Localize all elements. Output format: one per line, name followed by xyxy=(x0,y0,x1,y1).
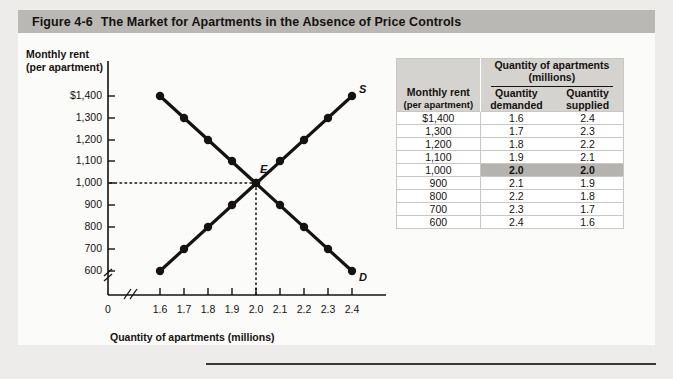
table-cell-quantity-demanded: 2.1 xyxy=(480,177,552,190)
figure-title: The Market for Apartments in the Absence… xyxy=(93,15,462,29)
table-group-header: Quantity of apartments (millions) xyxy=(480,59,623,88)
x-axis-title: Quantity of apartments (millions) xyxy=(110,331,275,344)
y-tick-label-1400: $1,400 xyxy=(50,89,102,101)
figure-panel: Monthly rent (per apartment) $1,400 1,30… xyxy=(18,33,655,345)
supply-curve-label: S xyxy=(359,83,366,95)
x-axis-origin-label: 0 xyxy=(93,303,123,315)
x-tick-label-2-4: 2.4 xyxy=(337,303,367,315)
table-row: 9002.11.9 xyxy=(397,177,624,190)
supply-demand-chart: Monthly rent (per apartment) $1,400 1,30… xyxy=(18,33,408,345)
table-cell-rent: 1,200 xyxy=(397,138,481,151)
table-cell-quantity-demanded: 2.0 xyxy=(480,164,552,177)
table-cell-quantity-supplied: 2.1 xyxy=(552,151,623,164)
table-body: $1,4001.62.41,3001.72.31,2001.82.21,1001… xyxy=(397,112,624,229)
table-row: 1,2001.82.2 xyxy=(397,138,624,151)
table-cell-quantity-demanded: 1.6 xyxy=(480,112,552,125)
figure-number: Figure 4-6 xyxy=(18,15,93,29)
table-row: 7002.31.7 xyxy=(397,203,624,216)
figure-title-bar: Figure 4-6 The Market for Apartments in … xyxy=(18,10,655,33)
table-header-row-group: Monthly rent(per apartment) Quantity of … xyxy=(397,59,624,88)
table-header-supplied-line2: supplied xyxy=(566,99,609,111)
table-header-rent-line2: (per apartment) xyxy=(404,99,474,110)
y-tick-label-800: 800 xyxy=(50,220,102,232)
bottom-divider xyxy=(206,363,656,365)
table-cell-quantity-demanded: 2.3 xyxy=(480,203,552,216)
table-cell-quantity-demanded: 1.9 xyxy=(480,151,552,164)
supply-demand-table: Monthly rent(per apartment) Quantity of … xyxy=(396,58,624,229)
equilibrium-point-label: E xyxy=(260,163,267,175)
chart-canvas xyxy=(18,33,408,345)
y-axis-title-line2: (per apartment) xyxy=(26,61,103,74)
table-cell-quantity-supplied: 1.7 xyxy=(552,203,623,216)
y-tick-label-1100: 1,100 xyxy=(50,154,102,166)
table-cell-rent: 1,100 xyxy=(397,151,481,164)
table-header-rent-line1: Monthly rent xyxy=(407,86,470,98)
table-group-header-line1: Quantity of apartments xyxy=(494,59,609,71)
y-tick-label-900: 900 xyxy=(50,198,102,210)
table-cell-quantity-demanded: 2.2 xyxy=(480,190,552,203)
table-cell-quantity-supplied: 2.3 xyxy=(552,125,623,138)
supply-demand-table-wrapper: Monthly rent(per apartment) Quantity of … xyxy=(396,58,624,229)
table-row: 6002.41.6 xyxy=(397,216,624,229)
table-header-supplied: Quantity supplied xyxy=(552,87,623,112)
table-row: 8002.21.8 xyxy=(397,190,624,203)
y-axis-title: Monthly rent (per apartment) xyxy=(26,48,103,73)
x-axis-break-icon xyxy=(124,289,137,299)
table-cell-rent: 800 xyxy=(397,190,481,203)
table-cell-quantity-supplied: 1.9 xyxy=(552,177,623,190)
y-tick-label-600: 600 xyxy=(50,264,102,276)
table-header-demanded-line2: demanded xyxy=(490,99,543,111)
table-corner-cell: Monthly rent(per apartment) xyxy=(397,59,481,112)
table-row: 1,1001.92.1 xyxy=(397,151,624,164)
figure-container: Figure 4-6 The Market for Apartments in … xyxy=(0,0,673,379)
table-cell-rent: 600 xyxy=(397,216,481,229)
table-cell-rent: 700 xyxy=(397,203,481,216)
table-row: 1,0002.02.0 xyxy=(397,164,624,177)
y-tick-label-700: 700 xyxy=(50,242,102,254)
table-cell-rent: $1,400 xyxy=(397,112,481,125)
y-tick-label-1000: 1,000 xyxy=(50,176,102,188)
table-cell-quantity-demanded: 1.7 xyxy=(480,125,552,138)
table-group-header-line2: (millions) xyxy=(529,71,576,83)
table-cell-quantity-supplied: 2.2 xyxy=(552,138,623,151)
y-tick-label-1300: 1,300 xyxy=(50,111,102,123)
table-cell-rent: 1,300 xyxy=(397,125,481,138)
y-axis-title-line1: Monthly rent xyxy=(26,48,103,61)
table-cell-quantity-supplied: 2.0 xyxy=(552,164,623,177)
table-cell-quantity-supplied: 1.6 xyxy=(552,216,623,229)
table-cell-rent: 1,000 xyxy=(397,164,481,177)
table-header-supplied-line1: Quantity xyxy=(566,87,609,99)
table-cell-quantity-demanded: 1.8 xyxy=(480,138,552,151)
demand-curve-label: D xyxy=(359,271,367,283)
table-cell-quantity-demanded: 2.4 xyxy=(480,216,552,229)
table-cell-quantity-supplied: 1.8 xyxy=(552,190,623,203)
table-cell-quantity-supplied: 2.4 xyxy=(552,112,623,125)
y-tick-label-1200: 1,200 xyxy=(50,133,102,145)
table-header-demanded-line1: Quantity xyxy=(495,87,538,99)
table-row: 1,3001.72.3 xyxy=(397,125,624,138)
table-row: $1,4001.62.4 xyxy=(397,112,624,125)
table-cell-rent: 900 xyxy=(397,177,481,190)
table-head: Monthly rent(per apartment) Quantity of … xyxy=(397,59,624,112)
table-header-demanded: Quantity demanded xyxy=(480,87,552,112)
